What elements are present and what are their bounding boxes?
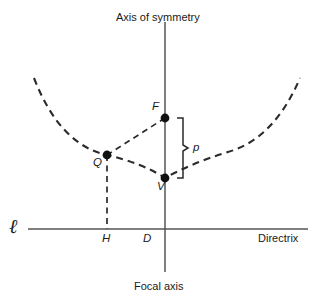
focal-axis-label: Focal axis: [134, 281, 184, 292]
parabola-curve: [34, 78, 300, 178]
focus-point-label: F: [152, 101, 159, 113]
axis-of-symmetry-label: Axis of symmetry: [116, 12, 200, 23]
vertex-point-label: V: [157, 181, 165, 193]
point-q: [103, 151, 112, 160]
figure-canvas: [0, 0, 321, 300]
directrix-symbol-label: ℓ: [9, 216, 17, 236]
focus-to-q-segment: [107, 118, 165, 155]
foot-point-label: H: [102, 233, 110, 245]
directrix-label: Directrix: [258, 233, 298, 244]
focal-distance-brace: [177, 118, 188, 178]
directrix-intersection-label: D: [143, 233, 151, 245]
curve-point-label: Q: [93, 157, 102, 169]
focal-distance-label: p: [193, 142, 199, 154]
parabola-figure: Axis of symmetry Focal axis Directrix F …: [0, 0, 321, 300]
point-focus: [161, 114, 170, 123]
